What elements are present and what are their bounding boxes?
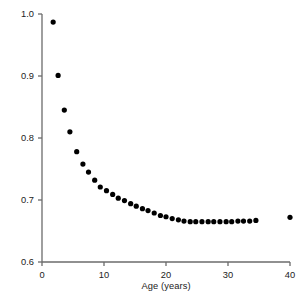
data-point (211, 219, 216, 224)
tick-marks (38, 14, 290, 266)
chart-figure: Production : biomass ratio (yr−1) Age (y… (0, 0, 301, 300)
data-point (98, 184, 103, 189)
data-point (56, 73, 61, 78)
data-point (241, 218, 246, 223)
data-point (229, 219, 234, 224)
data-point (86, 170, 91, 175)
axis-lines (42, 14, 290, 262)
data-point (51, 19, 56, 24)
data-point (74, 149, 79, 154)
data-point (80, 161, 85, 166)
data-point (287, 215, 292, 220)
data-point (110, 192, 115, 197)
data-point (140, 206, 145, 211)
data-point (104, 188, 109, 193)
data-point (92, 178, 97, 183)
data-point (247, 218, 252, 223)
data-point (188, 219, 193, 224)
data-point (116, 196, 121, 201)
data-point (158, 213, 163, 218)
plot-area (0, 0, 301, 300)
data-point (128, 201, 133, 206)
data-point (170, 216, 175, 221)
data-point (152, 210, 157, 215)
data-point (199, 219, 204, 224)
data-point (62, 108, 67, 113)
data-point (217, 219, 222, 224)
data-point (235, 218, 240, 223)
data-point (206, 219, 211, 224)
data-point (193, 219, 198, 224)
data-point (67, 129, 72, 134)
data-point (224, 219, 229, 224)
data-point (122, 198, 127, 203)
data-point-group (51, 19, 293, 224)
data-point (163, 214, 168, 219)
data-point (145, 208, 150, 213)
data-point (134, 204, 139, 209)
data-point (176, 217, 181, 222)
data-point (253, 218, 258, 223)
data-point (181, 218, 186, 223)
